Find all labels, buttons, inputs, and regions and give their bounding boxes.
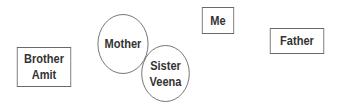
sister-veena-label: Sister Veena xyxy=(150,58,182,90)
brother-amit-box: Brother Amit xyxy=(17,47,71,87)
father-label: Father xyxy=(280,33,314,49)
mother-label: Mother xyxy=(105,36,142,52)
me-label: Me xyxy=(210,13,225,29)
brother-amit-label: Brother Amit xyxy=(24,51,64,83)
me-box: Me xyxy=(202,7,234,34)
mother-circle: Mother xyxy=(98,14,149,74)
father-box: Father xyxy=(270,28,324,54)
sister-veena-circle: Sister Veena xyxy=(141,45,189,102)
